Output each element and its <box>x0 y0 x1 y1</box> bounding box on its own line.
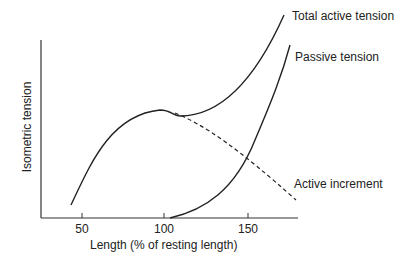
total-active-tension-curve <box>71 15 284 205</box>
chart-plot <box>0 0 417 261</box>
total-active-tension-label: Total active tension <box>292 9 394 23</box>
active-increment-curve <box>175 113 296 200</box>
x-tick-label-50: 50 <box>75 222 88 236</box>
passive-tension-label: Passive tension <box>295 50 379 64</box>
x-tick-label-150: 150 <box>238 222 258 236</box>
y-axis-label: Isometric tension <box>20 72 34 182</box>
active-increment-label: Active increment <box>294 177 383 191</box>
passive-tension-curve <box>170 45 290 218</box>
x-tick-label-100: 100 <box>154 222 174 236</box>
x-axis-label: Length (% of resting length) <box>90 238 237 252</box>
